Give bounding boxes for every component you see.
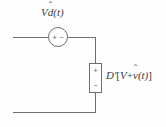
bottom-horizontal-wire: [13, 112, 96, 113]
element-label-hat-accent: ̂: [133, 64, 138, 74]
element-label-bracket-close: ]: [148, 69, 152, 81]
voltage-source-polarity-marks: + −: [48, 27, 68, 47]
element-label-dc-term: V: [120, 69, 127, 81]
source-plus-sign: +: [52, 34, 56, 41]
source-label-argument: (t): [53, 6, 63, 18]
right-vertical-wire-upper: [95, 37, 96, 64]
voltage-source-label: V̂d(t): [41, 7, 64, 18]
right-vertical-wire-lower: [95, 92, 96, 113]
top-horizontal-wire-left: [13, 37, 48, 38]
element-terminal-plus: +: [89, 67, 102, 74]
element-terminal-minus: −: [89, 82, 102, 89]
source-minus-sign: −: [60, 34, 64, 41]
source-label-gain: V: [41, 6, 48, 18]
source-label-variable-hatted: ̂d: [48, 7, 54, 18]
element-label-argument: (t): [138, 69, 148, 81]
dependent-source-label: D′[V+̂v(t)]: [106, 70, 152, 81]
source-label-hat-accent: ̂: [48, 1, 54, 11]
element-label-ac-variable-hatted: ̂v: [133, 70, 138, 81]
top-horizontal-wire-right: [68, 37, 96, 38]
element-label-coefficient: D′: [106, 69, 116, 81]
circuit-diagram: + − V̂d(t) + − D′[V+̂v(t)]: [0, 0, 166, 127]
